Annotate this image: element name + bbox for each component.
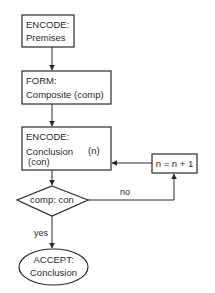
encode-conclusion-abbrev: (con) — [28, 156, 50, 167]
node-encode-premises: ENCODE: Premises — [22, 15, 74, 47]
encode-premises-title: ENCODE: — [26, 19, 69, 30]
encode-conclusion-index: (n) — [88, 145, 100, 156]
form-composite-title: FORM: — [26, 75, 57, 86]
encode-conclusion-title: ENCODE: — [26, 131, 69, 142]
edge-compare-no-to-increment — [88, 174, 174, 200]
node-form-composite: FORM: Composite (comp) — [22, 71, 111, 104]
form-composite-subtitle: Composite (comp) — [26, 89, 104, 100]
node-encode-conclusion: ENCODE: Conclusion (n) (con) — [22, 127, 111, 170]
flowchart-diagram: ENCODE: Premises FORM: Composite (comp) … — [0, 0, 215, 293]
no-edge-label: no — [120, 187, 130, 197]
yes-edge-label: yes — [34, 228, 49, 238]
node-compare: comp: con — [17, 186, 88, 216]
node-increment: n = n + 1 — [152, 154, 197, 173]
accept-subtitle: Conclusion — [30, 267, 77, 278]
compare-label: comp: con — [30, 194, 74, 205]
increment-label: n = n + 1 — [156, 158, 194, 169]
node-accept: ACCEPT: Conclusion — [19, 249, 88, 285]
encode-premises-subtitle: Premises — [26, 32, 66, 43]
accept-title: ACCEPT: — [33, 254, 73, 265]
